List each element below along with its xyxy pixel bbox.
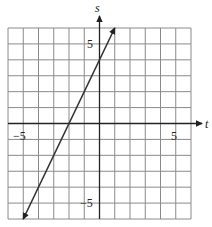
- x-axis-label: t: [205, 117, 209, 131]
- y-tick-neg5: −5: [80, 196, 93, 210]
- y-axis-label: s: [95, 1, 100, 15]
- x-tick-neg5: −5: [13, 129, 26, 143]
- x-tick-5: 5: [171, 129, 177, 143]
- graph: s t −5 5 5 −5: [0, 0, 212, 227]
- y-tick-5: 5: [87, 37, 93, 51]
